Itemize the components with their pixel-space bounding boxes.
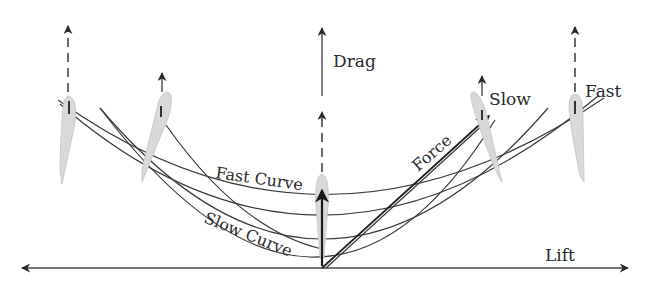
force-secondary-line — [326, 122, 486, 268]
curves — [58, 96, 604, 257]
drag-label: Drag — [333, 51, 376, 71]
curve-2 — [60, 96, 598, 215]
fast-label: Fast — [585, 81, 622, 101]
foil-shape — [142, 92, 171, 182]
foil-shape — [569, 94, 584, 182]
foil-right-slow: Slow — [471, 76, 531, 182]
force-diagram: Lift Drag Force Fast Curve Slow Curve Sl… — [0, 0, 654, 286]
foil-center — [316, 174, 329, 266]
foil-shape — [60, 96, 76, 184]
lift-label: Lift — [545, 245, 575, 265]
fast-curve — [58, 98, 604, 195]
foil-far-left — [60, 26, 76, 184]
force-arrow — [322, 116, 489, 268]
fast-curve-label: Fast Curve — [214, 163, 304, 194]
slow-label: Slow — [489, 89, 531, 109]
